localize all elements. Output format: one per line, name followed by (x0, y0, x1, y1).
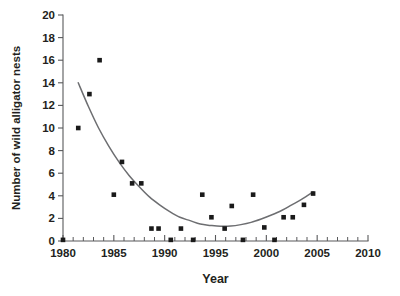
data-point-marker (191, 238, 196, 243)
fit-curve-group (78, 83, 313, 227)
x-axis-tick-label: 1990 (152, 247, 178, 259)
data-point-marker (281, 215, 286, 220)
x-axis-tick-label: 2010 (355, 247, 381, 259)
data-point-marker (179, 226, 184, 231)
x-axis-tick-label: 1985 (101, 247, 127, 259)
y-axis-tick-label: 14 (42, 77, 55, 89)
y-axis-tick-label: 20 (42, 9, 55, 21)
x-axis: 1980198519901995200020052010 (50, 235, 381, 259)
y-axis-tick-label: 12 (42, 99, 55, 111)
data-point-marker (262, 225, 267, 230)
x-axis-tick-label: 2005 (304, 247, 330, 259)
data-point-marker (290, 215, 295, 220)
data-point-marker (139, 181, 144, 186)
data-point-marker (120, 160, 125, 165)
y-axis-tick-label: 4 (49, 190, 56, 202)
y-axis-title: Number of wild alligator nests (10, 46, 22, 210)
y-axis-tick-label: 6 (49, 167, 55, 179)
data-point-marker (241, 238, 246, 243)
data-point-marker (112, 192, 117, 197)
data-point-marker (130, 181, 135, 186)
data-point-marker (251, 192, 256, 197)
data-point-marker (272, 238, 277, 243)
y-axis-tick-label: 2 (49, 212, 55, 224)
x-axis-title: Year (202, 272, 229, 286)
data-point-marker (61, 238, 66, 243)
y-axis-tick-label: 16 (42, 54, 55, 66)
x-axis-tick-label: 1980 (50, 247, 76, 259)
data-point-marker (311, 191, 316, 196)
data-point-marker (200, 192, 205, 197)
data-point-marker (149, 226, 154, 231)
data-point-marker (222, 226, 227, 231)
data-point-marker (302, 203, 307, 208)
data-point-marker (168, 238, 173, 243)
data-point-marker (229, 204, 234, 209)
y-axis-tick-label: 8 (49, 145, 56, 157)
fit-curve-path (78, 83, 313, 227)
y-axis: 02468101214161820 (42, 9, 63, 247)
alligator-nests-chart-figure: 02468101214161820 1980198519901995200020… (0, 0, 400, 296)
y-axis-tick-label: 18 (42, 32, 55, 44)
data-points-group (61, 58, 316, 242)
data-point-marker (156, 226, 161, 231)
x-axis-tick-label: 1995 (203, 247, 229, 259)
data-point-marker (87, 92, 92, 97)
y-axis-tick-label: 10 (42, 122, 55, 134)
data-point-marker (209, 215, 214, 220)
data-point-marker (76, 126, 81, 131)
x-axis-tick-label: 2000 (254, 247, 280, 259)
y-axis-tick-label: 0 (49, 235, 55, 247)
scatter-plot-svg: 02468101214161820 1980198519901995200020… (0, 0, 400, 296)
data-point-marker (97, 58, 102, 63)
